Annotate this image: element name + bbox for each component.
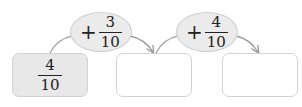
numerator: 3	[104, 15, 118, 32]
numerator: 4	[43, 58, 57, 75]
plus-operator: +	[186, 22, 203, 42]
denominator: 10	[38, 75, 61, 93]
arrow-2-right	[236, 36, 258, 52]
start-value-box: 4 10	[12, 53, 88, 97]
fraction: 4 10	[205, 15, 228, 50]
fraction: 3 10	[99, 15, 122, 50]
fraction: 4 10	[38, 58, 61, 93]
arrow-1-right	[130, 36, 153, 52]
step-oval-2: + 4 10	[176, 12, 238, 52]
denominator: 10	[205, 32, 228, 50]
answer-box-2[interactable]	[222, 53, 298, 97]
arrow-1-left	[50, 36, 72, 53]
denominator: 10	[99, 32, 122, 50]
arrow-2-left	[156, 36, 178, 53]
step-oval-1: + 3 10	[70, 12, 132, 52]
plus-operator: +	[80, 22, 97, 42]
answer-box-1[interactable]	[116, 53, 192, 97]
numerator: 4	[210, 15, 224, 32]
